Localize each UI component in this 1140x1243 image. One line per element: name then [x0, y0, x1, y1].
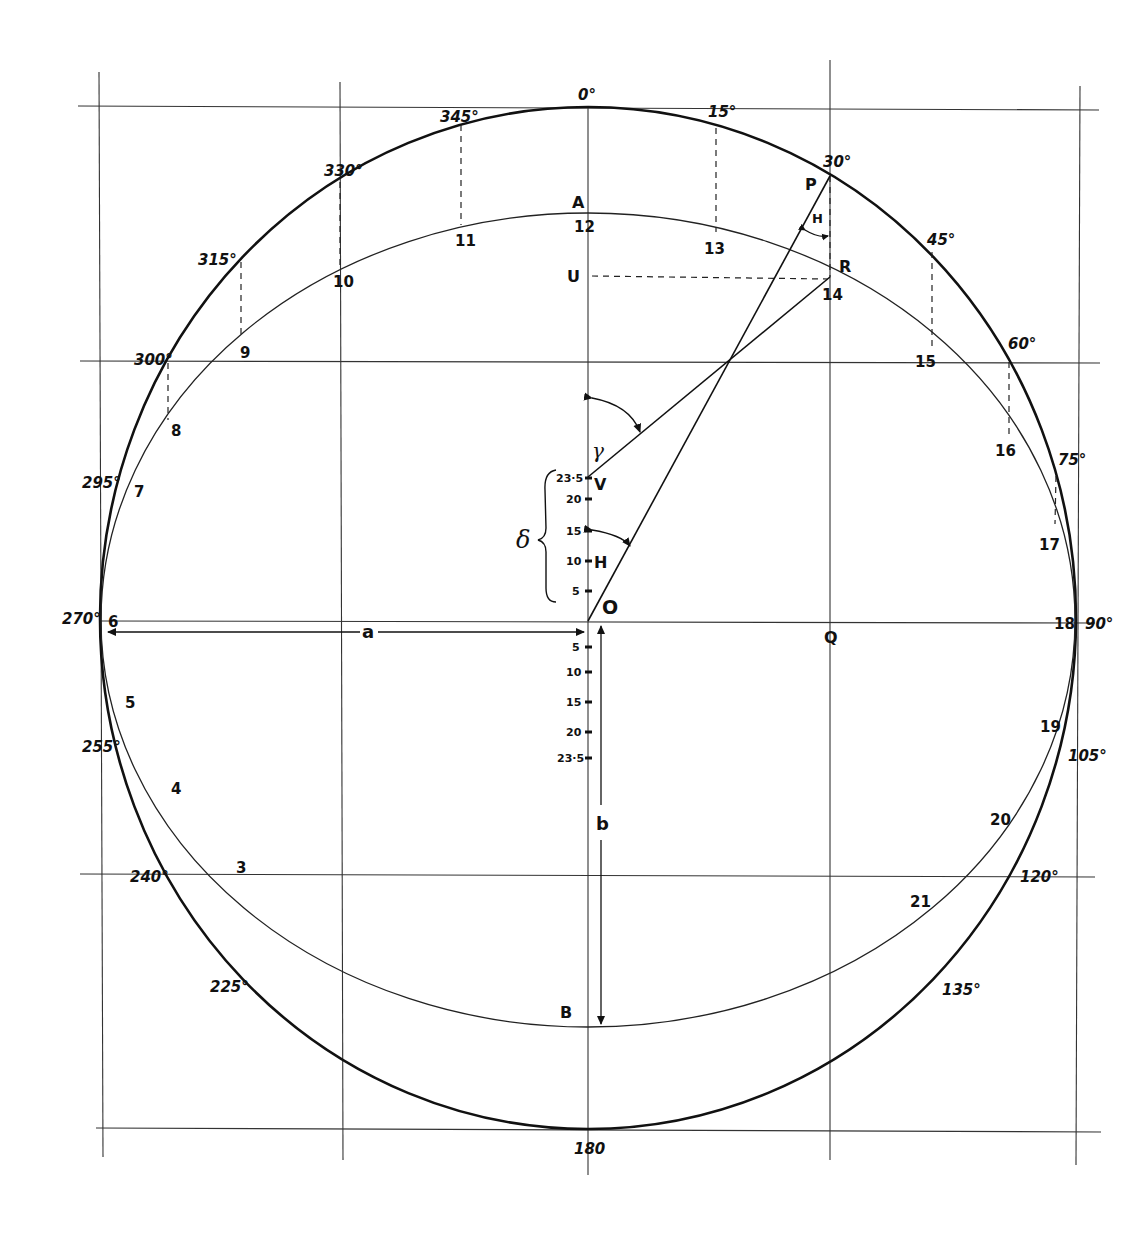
analemma-diagram: 0° 15° 30° 45° 60° 75° 90° 105° 120° 135…	[0, 0, 1140, 1243]
dimension-arrows	[108, 626, 601, 1024]
scale-up-5: 5	[572, 585, 580, 598]
label-deg-255: 255°	[82, 738, 121, 756]
label-point-q: Q	[824, 628, 838, 647]
label-hour-4: 4	[171, 780, 181, 798]
scale-down-20: 20	[566, 726, 582, 739]
label-hour-17: 17	[1039, 536, 1060, 554]
point-labels: A B P R U V H O Q H	[560, 175, 851, 1022]
label-deg-300: 300°	[134, 351, 173, 369]
label-hour-6: 6	[108, 613, 118, 631]
dashed-line-u-r	[592, 276, 828, 279]
label-hour-16: 16	[995, 442, 1016, 460]
label-deg-240: 240°	[130, 868, 169, 886]
label-deg-90: 90°	[1085, 615, 1113, 633]
scale-up-23-5: 23·5	[556, 472, 583, 485]
hour-labels: 3 4 5 6 7 8 9 10 11 12 13 14 15 16 17 18…	[108, 218, 1075, 911]
label-deg-15: 15°	[708, 103, 736, 121]
label-deg-45: 45°	[926, 231, 955, 249]
label-deg-345: 345°	[440, 108, 479, 126]
scale-down-23-5: 23·5	[557, 752, 584, 765]
label-point-v: V	[594, 475, 607, 494]
label-point-a: A	[572, 193, 585, 212]
label-hour-14: 14	[822, 286, 843, 304]
label-hour-19: 19	[1040, 718, 1061, 736]
label-hour-3: 3	[236, 859, 246, 877]
label-deg-295: 295°	[82, 474, 121, 492]
label-hour-8: 8	[171, 422, 181, 440]
label-hour-15: 15	[915, 353, 936, 371]
label-deg-315: 315°	[198, 251, 237, 269]
declination-scale: 23·5 20 15 10 5 5 10 15 20 23·5	[556, 472, 584, 765]
label-hour-20: 20	[990, 811, 1011, 829]
label-b: b	[596, 813, 609, 834]
label-deg-120: 120°	[1020, 868, 1059, 886]
label-deg-105: 105°	[1068, 747, 1107, 765]
label-gamma: γ	[592, 439, 604, 463]
label-point-b: B	[560, 1003, 572, 1022]
scale-down-10: 10	[566, 666, 582, 679]
label-point-r: R	[839, 257, 851, 276]
hour-angle-arc	[805, 230, 828, 236]
grid-horizontal-2	[80, 361, 1100, 363]
label-delta: δ	[516, 526, 530, 554]
label-hour-angle: H	[812, 211, 823, 226]
label-deg-270: 270°	[62, 610, 101, 628]
line-v-r	[588, 277, 830, 477]
label-hour-12: 12	[574, 218, 595, 236]
label-hour-10: 10	[333, 273, 354, 291]
scale-up-20: 20	[566, 493, 582, 506]
scale-up-15: 15	[566, 525, 581, 538]
label-a: a	[362, 621, 374, 642]
label-point-h: H	[594, 553, 607, 572]
label-deg-180: 180	[574, 1140, 605, 1158]
scale-down-15: 15	[566, 696, 581, 709]
label-deg-0: 0°	[578, 86, 596, 104]
label-hour-5: 5	[125, 694, 135, 712]
angle-arcs	[592, 230, 828, 546]
label-hour-9: 9	[240, 344, 250, 362]
delta-brace	[538, 470, 556, 602]
label-point-o: O	[602, 596, 618, 618]
label-deg-135: 135°	[942, 981, 981, 999]
label-hour-13: 13	[704, 240, 725, 258]
label-hour-7: 7	[134, 483, 144, 501]
label-deg-30: 30°	[823, 153, 851, 171]
declination-angle-arc	[592, 530, 630, 546]
label-hour-11: 11	[455, 232, 476, 250]
label-point-u: U	[567, 267, 580, 286]
label-deg-330: 330°	[324, 162, 363, 180]
label-deg-60: 60°	[1008, 335, 1036, 353]
scale-up-10: 10	[566, 555, 582, 568]
label-hour-21: 21	[910, 893, 931, 911]
label-hour-18: 18	[1054, 615, 1075, 633]
label-deg-75: 75°	[1058, 451, 1086, 469]
gamma-angle-arc	[592, 398, 640, 432]
label-point-p: P	[805, 175, 817, 194]
grid-horizontal-center	[100, 621, 1095, 623]
scale-down-5: 5	[572, 641, 580, 654]
label-deg-225: 225°	[210, 978, 249, 996]
